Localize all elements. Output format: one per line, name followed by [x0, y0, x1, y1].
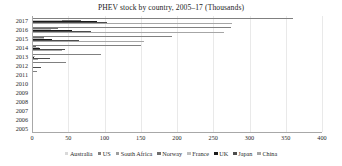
legend-label-japan: Japan: [238, 150, 252, 157]
legend-swatch-norway: [157, 152, 161, 156]
legend-label-uk: UK: [219, 150, 228, 157]
x-tick-150: 150: [136, 134, 145, 142]
bar-row: [32, 32, 322, 33]
x-tick-300: 300: [245, 134, 254, 142]
bar-row: [32, 94, 322, 95]
legend-swatch-south-africa: [116, 152, 120, 156]
legend-swatch-china: [257, 152, 261, 156]
legend-item-france[interactable]: France: [187, 150, 209, 157]
bar-group-2007: [32, 106, 322, 113]
bar-china-2015[interactable]: [32, 41, 144, 42]
chart-legend: AustraliaUSSouth AfricaNorwayFranceUKJap…: [0, 150, 342, 157]
bar-china-2014[interactable]: [32, 50, 62, 51]
plot-area: [32, 16, 322, 132]
bar-row: [32, 23, 322, 24]
y-tick-2009: 2009: [16, 88, 28, 95]
bar-row: [32, 130, 322, 131]
bar-row: [32, 121, 322, 122]
legend-label-us: US: [103, 150, 111, 157]
legend-label-norway: Norway: [162, 150, 182, 157]
bar-china-2017[interactable]: [32, 23, 232, 24]
x-axis-tick-labels: 050100150200250300350400: [32, 133, 322, 145]
bar-group-2016: [32, 26, 322, 33]
legend-label-south-africa: South Africa: [121, 150, 152, 157]
y-tick-2012: 2012: [16, 62, 28, 69]
legend-swatch-france: [187, 152, 191, 156]
legend-item-china[interactable]: China: [257, 150, 277, 157]
legend-swatch-uk: [214, 152, 218, 156]
bar-group-2005: [32, 124, 322, 131]
bar-row: [32, 59, 322, 60]
legend-swatch-australia: [65, 152, 69, 156]
y-tick-2006: 2006: [16, 115, 28, 122]
y-tick-2007: 2007: [16, 106, 28, 113]
bar-row: [32, 50, 322, 51]
y-tick-2008: 2008: [16, 97, 28, 104]
bar-row: [32, 77, 322, 78]
bar-group-2017: [32, 17, 322, 24]
legend-item-norway[interactable]: Norway: [157, 150, 182, 157]
x-tick-50: 50: [65, 134, 71, 142]
x-tick-350: 350: [281, 134, 290, 142]
y-tick-2017: 2017: [16, 17, 28, 24]
legend-swatch-us: [98, 152, 102, 156]
bar-row: [32, 68, 322, 69]
y-tick-2015: 2015: [16, 35, 28, 42]
y-tick-2013: 2013: [16, 53, 28, 60]
phev-stock-bar-chart: PHEV stock by country, 2005–17 (Thousand…: [0, 0, 342, 166]
legend-label-france: France: [192, 150, 209, 157]
legend-item-south-africa[interactable]: South Africa: [116, 150, 153, 157]
gridline-400: [322, 16, 323, 132]
x-tick-0: 0: [30, 134, 33, 142]
chart-title: PHEV stock by country, 2005–17 (Thousand…: [0, 3, 342, 12]
y-tick-2005: 2005: [16, 124, 28, 131]
bar-group-2009: [32, 88, 322, 95]
legend-item-uk[interactable]: UK: [214, 150, 228, 157]
bar-group-2013: [32, 53, 322, 60]
y-axis-line: [32, 16, 33, 132]
y-tick-2011: 2011: [16, 71, 28, 78]
legend-swatch-japan: [233, 152, 237, 156]
legend-item-us[interactable]: US: [98, 150, 111, 157]
bar-row: [32, 41, 322, 42]
y-tick-2016: 2016: [16, 26, 28, 33]
bar-group-2014: [32, 44, 322, 51]
bars-layer: [32, 16, 322, 132]
x-tick-250: 250: [209, 134, 218, 142]
x-tick-100: 100: [100, 134, 109, 142]
bar-group-2015: [32, 35, 322, 42]
bar-row: [32, 85, 322, 86]
legend-label-australia: Australia: [70, 150, 93, 157]
y-axis-tick-labels: 2017201620152014201320122011201020092008…: [0, 16, 30, 132]
x-tick-400: 400: [317, 134, 326, 142]
x-tick-200: 200: [172, 134, 181, 142]
y-tick-2014: 2014: [16, 44, 28, 51]
bar-group-2006: [32, 115, 322, 122]
bar-row: [32, 103, 322, 104]
y-tick-2010: 2010: [16, 79, 28, 86]
bar-group-2008: [32, 97, 322, 104]
bar-row: [32, 112, 322, 113]
bar-china-2016[interactable]: [32, 32, 224, 33]
legend-item-australia[interactable]: Australia: [65, 150, 93, 157]
bar-group-2012: [32, 62, 322, 69]
bar-group-2010: [32, 79, 322, 86]
bar-group-2011: [32, 71, 322, 78]
legend-item-japan[interactable]: Japan: [233, 150, 252, 157]
legend-label-china: China: [262, 150, 277, 157]
